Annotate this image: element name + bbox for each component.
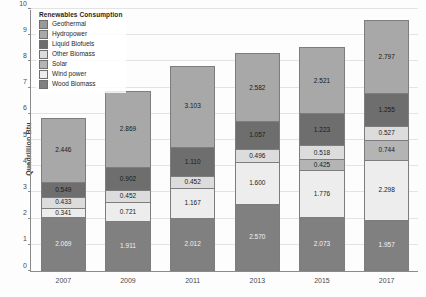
bar-value-label: 1.776 — [314, 191, 330, 198]
bar-segment[interactable]: 0.452 — [170, 176, 215, 188]
bar-value-label: 0.527 — [379, 130, 395, 137]
bar-segment[interactable]: 0.425 — [299, 159, 344, 170]
y-axis-tick-label: 5 — [23, 130, 31, 137]
bar-value-label: 1.223 — [314, 127, 330, 134]
renewables-consumption-chart: Quadrillion Btu 012345678910 2.0690.3410… — [0, 0, 426, 297]
y-axis-tick-label: 9 — [23, 25, 31, 32]
bar-value-label: 1.911 — [120, 243, 136, 250]
bar-group-2009[interactable]: 1.9110.7210.4520.9022.8692009 — [105, 91, 150, 271]
y-axis-tick-label: 4 — [23, 156, 31, 163]
bar-segment[interactable]: 0.902 — [105, 167, 150, 191]
legend-item-label: Solar — [52, 61, 67, 68]
bar-segment[interactable]: 0.452 — [105, 190, 150, 202]
bar-value-label: 0.425 — [314, 162, 330, 169]
legend-item[interactable]: Wood Biomass — [39, 80, 122, 89]
bar-value-label: 3.103 — [185, 103, 201, 110]
legend-item[interactable]: Other Biomass — [39, 50, 122, 59]
bar-segment[interactable]: 1.957 — [364, 220, 409, 271]
legend-item[interactable]: Wind power — [39, 70, 122, 79]
bar-value-label: 2.069 — [55, 241, 71, 248]
legend-swatch-icon — [39, 40, 48, 49]
bar-segment[interactable]: 1.057 — [235, 121, 280, 149]
bar-value-label: 2.582 — [249, 85, 265, 92]
bar-value-label: 1.057 — [249, 132, 265, 139]
bar-value-label: 0.433 — [55, 199, 71, 206]
legend-item-label: Hydropower — [52, 31, 87, 38]
y-axis-tick-label: 6 — [23, 104, 31, 111]
bar-value-label: 2.073 — [314, 241, 330, 248]
bar-segment[interactable]: 1.911 — [105, 221, 150, 271]
bar-segment[interactable]: 2.073 — [299, 217, 344, 271]
x-axis-tick-label: 2009 — [120, 277, 136, 284]
bar-segment[interactable]: 1.255 — [364, 93, 409, 126]
bar-segment[interactable]: 0.433 — [41, 197, 86, 208]
bar-segment[interactable]: 2.869 — [105, 91, 150, 166]
bar-value-label: 2.298 — [379, 187, 395, 194]
bar-value-label: 0.549 — [55, 187, 71, 194]
bar-value-label: 0.518 — [314, 150, 330, 157]
legend-item[interactable]: Solar — [39, 60, 122, 69]
legend-item-label: Other Biomass — [52, 51, 95, 58]
legend-item[interactable]: Geothermal — [39, 20, 122, 29]
legend-item-label: Wind power — [52, 71, 86, 78]
bar-value-label: 1.110 — [185, 159, 201, 166]
bar-segment[interactable]: 2.012 — [170, 218, 215, 271]
x-axis-tick-label: 2007 — [56, 277, 72, 284]
legend-item[interactable]: Liquid Biofuels — [39, 40, 122, 49]
bar-segment[interactable]: 2.446 — [41, 118, 86, 182]
bar-segment[interactable]: 2.069 — [41, 217, 86, 271]
bar-segment[interactable]: 0.496 — [235, 149, 280, 162]
y-axis-tick-label: 7 — [23, 78, 31, 85]
legend-item-label: Wood Biomass — [52, 81, 96, 88]
bar-group-2015[interactable]: 2.0731.7760.4250.5181.2232.5212015 — [299, 47, 344, 271]
bar-segment[interactable]: 1.110 — [170, 147, 215, 176]
bar-segment[interactable]: 2.797 — [364, 20, 409, 93]
bar-value-label: 1.255 — [379, 107, 395, 114]
legend-swatch-icon — [39, 80, 48, 89]
y-axis-tick-label: 1 — [23, 235, 31, 242]
bar-value-label: 2.570 — [249, 234, 265, 241]
legend-item[interactable]: Hydropower — [39, 30, 122, 39]
bar-segment[interactable]: 1.223 — [299, 113, 344, 145]
bar-value-label: 0.721 — [120, 209, 136, 216]
bar-segment[interactable]: 1.167 — [170, 188, 215, 219]
legend-item-label: Liquid Biofuels — [52, 41, 94, 48]
bar-value-label: 1.167 — [185, 200, 201, 207]
bar-segment[interactable]: 2.298 — [364, 160, 409, 220]
bar-group-2007[interactable]: 2.0690.3410.4330.5492.4462007 — [41, 118, 86, 271]
bar-group-2013[interactable]: 2.5701.6000.4961.0572.5822013 — [235, 53, 280, 271]
x-axis-tick-label: 2013 — [250, 277, 266, 284]
bar-segment[interactable]: 1.600 — [235, 162, 280, 204]
bar-segment[interactable]: 0.341 — [41, 208, 86, 217]
bar-value-label: 0.744 — [379, 147, 395, 154]
bar-segment[interactable]: 0.549 — [41, 182, 86, 196]
bar-segment[interactable]: 2.521 — [299, 47, 344, 113]
bar-segment[interactable]: 2.570 — [235, 204, 280, 271]
bar-segment[interactable]: 3.103 — [170, 66, 215, 147]
bar-segment[interactable]: 0.527 — [364, 126, 409, 140]
legend-swatch-icon — [39, 30, 48, 39]
bar-value-label: 2.797 — [379, 54, 395, 61]
bar-value-label: 0.452 — [185, 179, 201, 186]
bar-group-2017[interactable]: 1.9572.2980.7440.5271.2552.7972017 — [364, 20, 409, 271]
y-axis-tick-label: 2 — [23, 209, 31, 216]
x-axis-tick-label: 2017 — [379, 277, 395, 284]
bar-group-2011[interactable]: 2.0121.1670.4521.1103.1032011 — [170, 66, 215, 271]
legend: Renewables Consumption GeothermalHydropo… — [36, 9, 126, 93]
bar-segment[interactable]: 1.776 — [299, 170, 344, 217]
y-axis-tick-label: 3 — [23, 182, 31, 189]
legend-items: GeothermalHydropowerLiquid BiofuelsOther… — [39, 20, 122, 89]
legend-swatch-icon — [39, 20, 48, 29]
bar-segment[interactable]: 0.518 — [299, 145, 344, 159]
bar-value-label: 1.957 — [379, 242, 395, 249]
bar-value-label: 2.521 — [314, 78, 330, 85]
bar-segment[interactable]: 0.744 — [364, 140, 409, 159]
bar-segment[interactable]: 2.582 — [235, 53, 280, 121]
bar-segment[interactable]: 0.721 — [105, 202, 150, 221]
y-axis-tick-label: 8 — [23, 51, 31, 58]
legend-swatch-icon — [39, 60, 48, 69]
legend-swatch-icon — [39, 50, 48, 59]
legend-title: Renewables Consumption — [39, 11, 122, 18]
bar-value-label: 2.869 — [120, 126, 136, 133]
bar-value-label: 0.496 — [249, 153, 265, 160]
